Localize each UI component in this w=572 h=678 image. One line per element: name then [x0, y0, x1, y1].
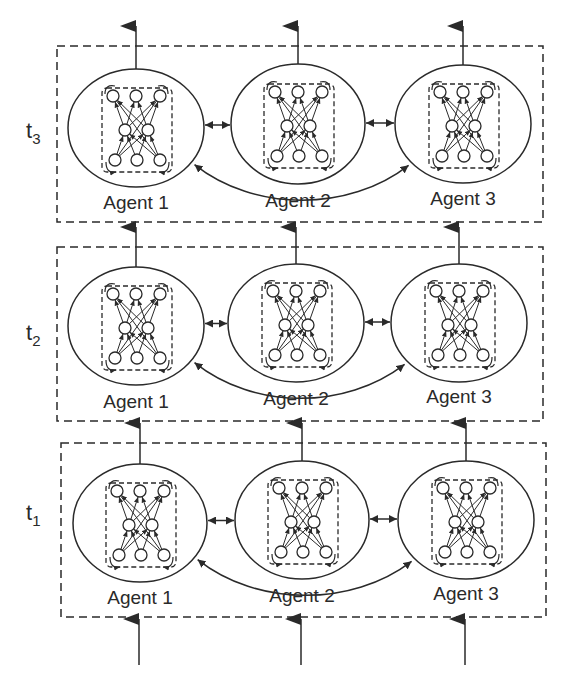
diagram-content: t3Agent 1Agent 2Agent 3t2Agent 1Agent 2A…	[26, 26, 546, 665]
weight-edge	[440, 331, 446, 350]
neuron-node	[449, 516, 461, 528]
neuron-node	[461, 546, 473, 558]
neuron-node	[454, 349, 466, 361]
neuron-node	[146, 519, 158, 531]
neuron-node	[113, 549, 125, 561]
neuron-node	[131, 154, 143, 166]
neuron-node	[131, 352, 143, 364]
neuron-node	[316, 150, 328, 162]
neuron-node	[123, 519, 135, 531]
weight-edge	[279, 132, 285, 151]
neuron-node	[107, 288, 119, 300]
weight-edge	[460, 526, 486, 548]
weight-edge	[277, 295, 303, 321]
neuron-node	[446, 120, 458, 132]
neuron-node	[460, 482, 472, 494]
timestep-label: t2	[26, 320, 40, 349]
neuron-node	[481, 150, 493, 162]
weight-edge	[447, 492, 473, 518]
neuron-node	[472, 516, 484, 528]
weight-edge	[296, 526, 322, 548]
neuron-node	[158, 549, 170, 561]
neuron-node	[457, 86, 469, 98]
neuron-node	[439, 546, 451, 558]
weight-edge	[134, 529, 160, 551]
neuron-node	[484, 482, 496, 494]
neuron-node	[154, 352, 166, 364]
neuron-node	[304, 120, 316, 132]
weight-edge	[127, 136, 135, 155]
neuron-node	[442, 319, 454, 331]
neuron-node	[314, 285, 326, 297]
neuron-node	[154, 154, 166, 166]
neuron-node	[275, 546, 287, 558]
timestep-t1: t1Agent 1Agent 2Agent 3	[26, 423, 546, 665]
neuron-node	[154, 288, 166, 300]
timestep-label: t1	[26, 500, 40, 529]
neuron-node	[269, 349, 281, 361]
agent-label: Agent 1	[107, 587, 173, 608]
neuron-node	[320, 546, 332, 558]
weight-edge	[444, 132, 450, 151]
neuron-node	[293, 150, 305, 162]
agent-2: Agent 2	[228, 227, 364, 409]
agent-label: Agent 1	[103, 391, 169, 412]
timestep-t2: t2Agent 1Agent 2Agent 3	[26, 227, 543, 421]
agent-1: Agent 1	[68, 26, 204, 213]
neuron-node	[271, 150, 283, 162]
neuron-node	[119, 124, 131, 136]
agent-1: Agent 1	[68, 227, 204, 412]
neuron-node	[469, 120, 481, 132]
weight-edge	[457, 130, 483, 152]
agent-3: Agent 3	[391, 227, 527, 407]
neuron-node	[302, 319, 314, 331]
neuron-node	[142, 322, 154, 334]
neuron-node	[135, 549, 147, 561]
timestep-label: t3	[26, 118, 40, 147]
timestep-t3: t3Agent 1Agent 2Agent 3	[26, 26, 543, 222]
neuron-node	[134, 485, 146, 497]
neuron-node	[297, 546, 309, 558]
neuron-node	[285, 516, 297, 528]
weight-edge	[117, 136, 123, 155]
neuron-node	[290, 285, 302, 297]
weight-edge	[287, 331, 295, 350]
weight-edge	[440, 295, 466, 321]
neuron-node	[296, 482, 308, 494]
neuron-node	[458, 150, 470, 162]
agent-2: Agent 2	[231, 26, 365, 211]
neuron-node	[453, 285, 465, 297]
weight-edge	[117, 298, 143, 324]
weight-edge	[450, 331, 458, 350]
weight-edge	[283, 492, 309, 518]
neuron-node	[142, 124, 154, 136]
neuron-node	[316, 86, 328, 98]
agent-label: Agent 3	[426, 386, 492, 407]
weight-edge	[447, 528, 453, 547]
multi-agent-diagram: t3Agent 1Agent 2Agent 3t2Agent 1Agent 2A…	[0, 0, 572, 678]
agent-3: Agent 3	[398, 423, 534, 665]
neuron-node	[477, 285, 489, 297]
weight-edge	[130, 134, 156, 156]
neuron-node	[111, 485, 123, 497]
agent-label: Agent 3	[430, 188, 496, 209]
weight-edge	[130, 332, 156, 354]
neuron-node	[437, 482, 449, 494]
weight-edge	[444, 96, 470, 122]
neuron-node	[432, 349, 444, 361]
weight-edge	[457, 528, 465, 547]
neuron-node	[130, 90, 142, 102]
weight-edge	[117, 100, 143, 126]
weight-edge	[121, 531, 127, 550]
agent-1: Agent 1	[73, 423, 207, 665]
weight-edge	[277, 331, 283, 350]
neuron-node	[107, 90, 119, 102]
neuron-node	[267, 285, 279, 297]
neuron-node	[158, 485, 170, 497]
neuron-node	[436, 150, 448, 162]
agent-2: Agent 2	[235, 423, 369, 665]
neuron-node	[314, 349, 326, 361]
neuron-node	[269, 86, 281, 98]
neuron-node	[281, 120, 293, 132]
neuron-node	[273, 482, 285, 494]
